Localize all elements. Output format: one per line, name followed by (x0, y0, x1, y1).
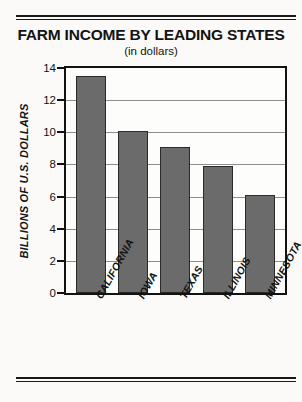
y-tick-label: 14 (16, 62, 56, 74)
bar (203, 166, 233, 293)
bar-series (66, 68, 285, 293)
y-tick-label: 4 (16, 223, 56, 235)
y-tick-label: 8 (16, 158, 56, 170)
top-rule-thin (16, 19, 296, 20)
y-tick-mark (57, 292, 64, 294)
bottom-rule-divider (16, 377, 296, 382)
chart-page: FARM INCOME BY LEADING STATES (in dollar… (0, 0, 302, 402)
bar (118, 131, 148, 293)
bar (160, 147, 190, 293)
y-tick-mark (57, 67, 64, 69)
y-tick-mark (57, 163, 64, 165)
y-tick-label: 10 (16, 126, 56, 138)
plot-area (64, 66, 287, 295)
top-rule-divider (16, 15, 296, 20)
y-tick-label: 0 (16, 287, 56, 299)
y-tick-mark (57, 228, 64, 230)
y-tick-label: 6 (16, 191, 56, 203)
chart-subtitle: (in dollars) (0, 45, 302, 57)
y-tick-mark (57, 131, 64, 133)
y-tick-mark (57, 260, 64, 262)
bar-slot (76, 68, 106, 293)
chart-title: FARM INCOME BY LEADING STATES (0, 26, 302, 44)
bar (76, 76, 106, 293)
bottom-rule-thin (16, 381, 296, 382)
bar-slot (160, 68, 190, 293)
y-tick-mark (57, 99, 64, 101)
y-tick-label: 2 (16, 255, 56, 267)
x-axis-category-labels: CALIFORNIAIOWATEXASILLINOISMINNESOTA (64, 295, 287, 375)
y-tick-label: 12 (16, 94, 56, 106)
y-tick-mark (57, 196, 64, 198)
bar-slot (203, 68, 233, 293)
